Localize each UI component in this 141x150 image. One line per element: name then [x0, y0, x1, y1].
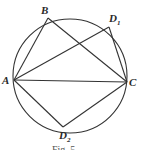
segment-AD2	[14, 80, 63, 127]
segment-BC	[48, 18, 127, 82]
segment-D2C	[63, 82, 127, 127]
label-C: C	[129, 76, 137, 88]
label-D2: D2	[58, 129, 71, 144]
segment-AC	[14, 80, 127, 82]
cyclic-quadrilateral-diagram: B D1 A C D2 Fig. 5	[0, 0, 141, 150]
label-B: B	[40, 4, 48, 16]
label-D1: D1	[108, 12, 120, 27]
segment-D1C	[109, 27, 127, 82]
figure-caption: Fig. 5	[52, 144, 75, 150]
label-A: A	[1, 74, 9, 86]
